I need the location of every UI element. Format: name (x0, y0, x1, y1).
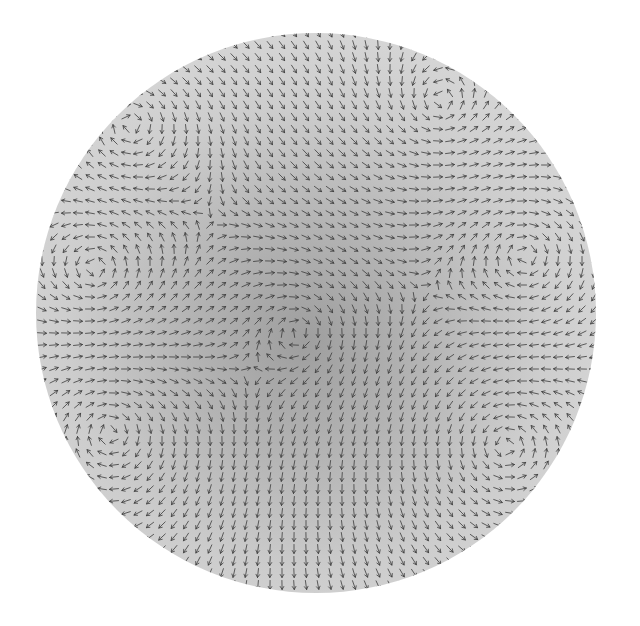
vector-field-figure (0, 0, 640, 626)
vector-field-plot (0, 0, 640, 626)
circular-domain (36, 33, 596, 593)
